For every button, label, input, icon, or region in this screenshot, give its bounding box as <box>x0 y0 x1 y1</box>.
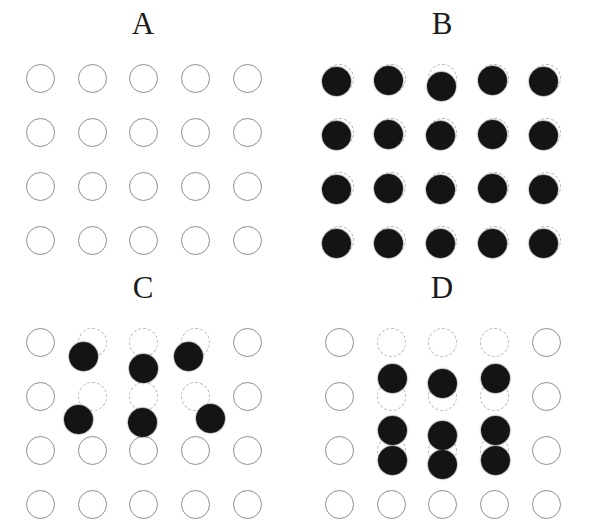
lattice-site-solid <box>129 118 158 147</box>
lattice-site-solid <box>78 64 107 93</box>
lattice-site-solid <box>26 490 55 519</box>
lattice-site-solid <box>233 328 262 357</box>
lattice-site-solid <box>325 382 354 411</box>
lattice-site-solid <box>325 436 354 465</box>
lattice-site-solid <box>377 490 406 519</box>
lattice-site-solid <box>78 436 107 465</box>
lattice-site-solid <box>181 64 210 93</box>
lattice-site-solid <box>78 490 107 519</box>
filled-dot <box>428 450 457 479</box>
lattice-site-solid <box>480 490 509 519</box>
lattice-grid-a <box>0 0 299 264</box>
lattice-site-solid <box>532 490 561 519</box>
panel-b: B <box>299 0 598 264</box>
lattice-site-solid <box>233 490 262 519</box>
lattice-grid-d <box>299 264 598 528</box>
lattice-site-solid <box>233 226 262 255</box>
lattice-site-solid <box>428 490 457 519</box>
filled-dot <box>378 364 407 393</box>
lattice-site-solid <box>325 328 354 357</box>
lattice-site-solid <box>181 490 210 519</box>
lattice-site-solid <box>78 118 107 147</box>
filled-dot <box>426 121 455 150</box>
filled-dot <box>322 175 351 204</box>
filled-dot <box>428 421 457 450</box>
lattice-site-solid <box>129 64 158 93</box>
filled-dot <box>426 175 455 204</box>
lattice-site-solid <box>78 172 107 201</box>
filled-dot <box>374 120 403 149</box>
lattice-grid-c <box>0 264 299 528</box>
panel-a: A <box>0 0 299 264</box>
filled-dot <box>174 342 203 371</box>
filled-dot <box>322 67 351 96</box>
filled-dot <box>529 175 558 204</box>
filled-dot <box>374 174 403 203</box>
lattice-site-solid <box>26 172 55 201</box>
dot-grid-figure: ABCD <box>0 0 598 528</box>
lattice-site-dashed <box>129 382 158 411</box>
lattice-site-solid <box>129 226 158 255</box>
filled-dot <box>427 72 456 101</box>
filled-dot <box>529 67 558 96</box>
filled-dot <box>426 229 455 258</box>
panel-c: C <box>0 264 299 528</box>
lattice-site-solid <box>129 436 158 465</box>
lattice-site-solid <box>532 436 561 465</box>
lattice-site-solid <box>181 226 210 255</box>
lattice-site-solid <box>129 172 158 201</box>
lattice-site-solid <box>26 226 55 255</box>
lattice-site-solid <box>26 382 55 411</box>
lattice-grid-b <box>299 0 598 264</box>
filled-dot <box>374 66 403 95</box>
filled-dot <box>322 229 351 258</box>
lattice-site-solid <box>78 226 107 255</box>
lattice-site-solid <box>325 490 354 519</box>
filled-dot <box>64 405 93 434</box>
lattice-site-solid <box>181 118 210 147</box>
lattice-site-solid <box>26 436 55 465</box>
panel-d: D <box>299 264 598 528</box>
filled-dot <box>374 229 403 258</box>
filled-dot <box>478 120 507 149</box>
filled-dot <box>129 354 158 383</box>
filled-dot <box>196 404 225 433</box>
lattice-site-solid <box>233 118 262 147</box>
lattice-site-dashed <box>480 328 509 357</box>
filled-dot <box>69 342 98 371</box>
filled-dot <box>478 229 507 258</box>
lattice-site-solid <box>233 382 262 411</box>
filled-dot <box>529 121 558 150</box>
lattice-site-dashed <box>377 328 406 357</box>
lattice-site-solid <box>181 172 210 201</box>
filled-dot <box>481 446 510 475</box>
filled-dot <box>478 174 507 203</box>
filled-dot <box>478 66 507 95</box>
filled-dot <box>428 369 457 398</box>
lattice-site-solid <box>233 172 262 201</box>
lattice-site-solid <box>26 64 55 93</box>
lattice-site-dashed <box>428 328 457 357</box>
lattice-site-dashed <box>129 328 158 357</box>
lattice-site-solid <box>26 328 55 357</box>
lattice-site-solid <box>233 64 262 93</box>
filled-dot <box>322 121 351 150</box>
lattice-site-solid <box>181 436 210 465</box>
lattice-site-solid <box>532 382 561 411</box>
filled-dot <box>529 229 558 258</box>
filled-dot <box>128 408 157 437</box>
lattice-site-solid <box>233 436 262 465</box>
filled-dot <box>378 446 407 475</box>
filled-dot <box>378 416 407 445</box>
lattice-site-solid <box>532 328 561 357</box>
filled-dot <box>481 364 510 393</box>
lattice-site-solid <box>129 490 158 519</box>
lattice-site-solid <box>26 118 55 147</box>
filled-dot <box>481 416 510 445</box>
